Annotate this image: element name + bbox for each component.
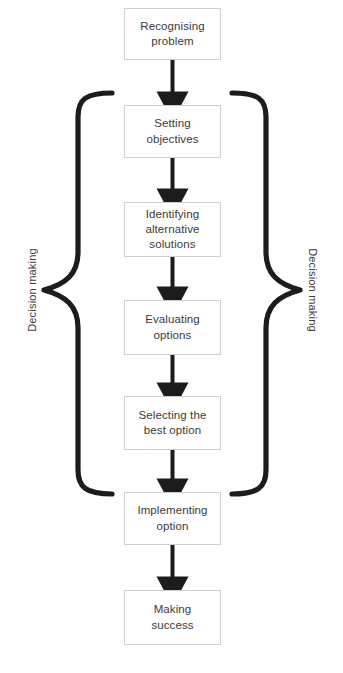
node-label-making-success: Making success — [147, 602, 197, 632]
side-label-right-decision-making: Decision making — [307, 242, 319, 338]
node-selecting-best-option[interactable]: Selecting the best option — [124, 396, 221, 450]
node-label-setting-objectives: Setting objectives — [125, 116, 220, 146]
node-label-evaluating-options: Evaluating options — [141, 312, 204, 342]
node-recognising-problem[interactable]: Recognising problem — [124, 8, 221, 60]
node-implementing-option[interactable]: Implementing option — [124, 492, 221, 545]
node-label-recognising-problem: Recognising problem — [136, 19, 208, 49]
node-label-selecting-best-option: Selecting the best option — [135, 408, 211, 438]
node-setting-objectives[interactable]: Setting objectives — [124, 105, 221, 158]
node-making-success[interactable]: Making success — [124, 590, 221, 645]
flowchart-canvas: Recognising problem Setting objectives I… — [0, 0, 343, 673]
node-evaluating-options[interactable]: Evaluating options — [124, 300, 221, 355]
right-brace-icon — [232, 93, 300, 494]
node-label-implementing-option: Implementing option — [133, 503, 211, 533]
node-identifying-alternative-solutions[interactable]: Identifying alternative solutions — [124, 202, 221, 257]
node-label-identifying-alternative-solutions: Identifying alternative solutions — [141, 207, 203, 253]
side-label-left-decision-making: Decision making — [26, 242, 38, 338]
left-brace-icon — [44, 93, 112, 494]
